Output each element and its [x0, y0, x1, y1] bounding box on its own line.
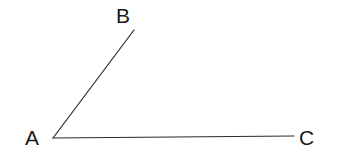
segment-a-to-c: [53, 136, 294, 138]
vertex-label-b: B: [116, 5, 130, 26]
segment-a-to-b: [53, 30, 134, 138]
angle-diagram-canvas: A B C: [0, 0, 340, 158]
angle-diagram-svg: [0, 0, 340, 158]
vertex-label-a: A: [25, 127, 39, 148]
vertex-label-c: C: [299, 127, 314, 148]
